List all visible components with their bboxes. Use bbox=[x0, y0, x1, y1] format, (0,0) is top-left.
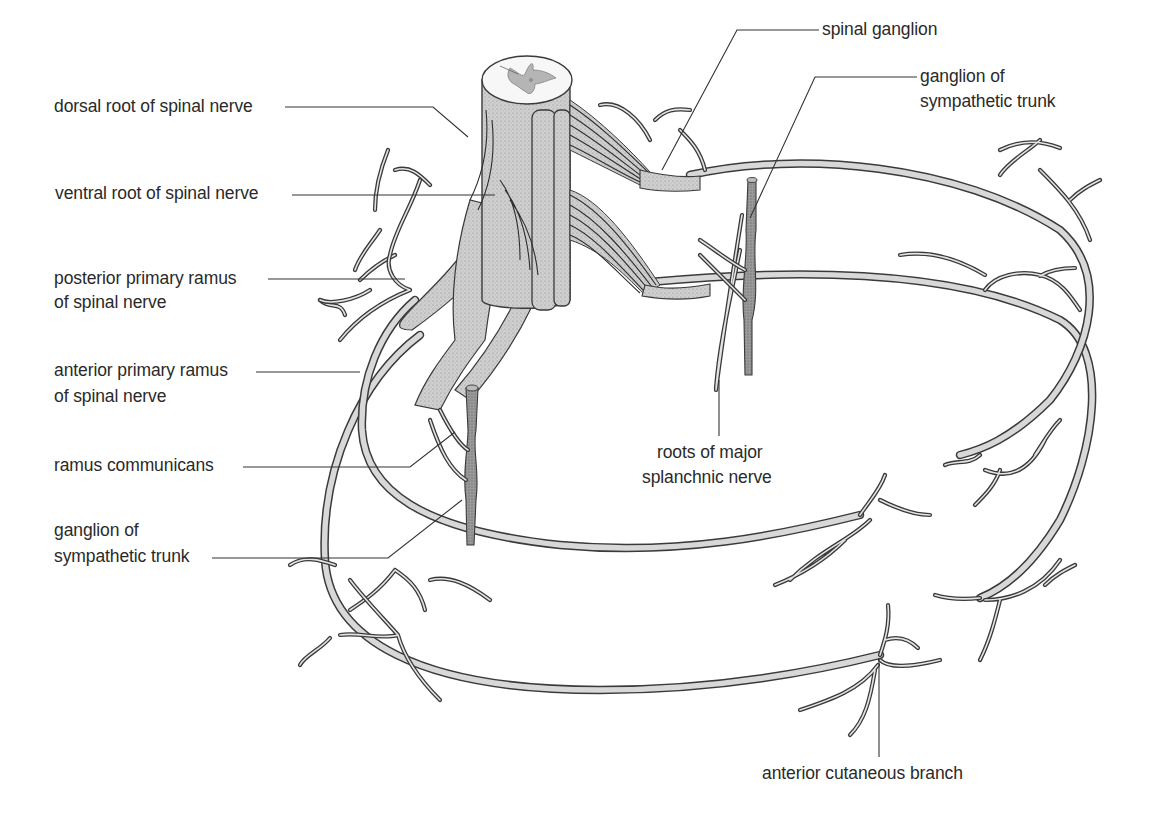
label-posterior-ramus-line2: of spinal nerve bbox=[54, 290, 166, 315]
label-anterior-ramus-line1: anterior primary ramus bbox=[54, 358, 228, 383]
label-ganglion-right-line2: sympathetic trunk bbox=[920, 89, 1055, 114]
label-dorsal-root: dorsal root of spinal nerve bbox=[54, 94, 253, 119]
label-ganglion-left-line1: ganglion of bbox=[54, 518, 139, 543]
label-spinal-ganglion: spinal ganglion bbox=[822, 17, 937, 42]
sympathetic-trunk-left bbox=[465, 385, 478, 545]
leader-ganglion-right bbox=[750, 77, 917, 218]
spinal-cord bbox=[482, 56, 572, 310]
label-ventral-root: ventral root of spinal nerve bbox=[55, 181, 258, 206]
leader-spinal-ganglion bbox=[662, 30, 819, 170]
leader-dorsal-root bbox=[285, 107, 468, 137]
label-anterior-ramus-line2: of spinal nerve bbox=[54, 384, 166, 409]
label-splanchnic-line1: roots of major bbox=[657, 440, 763, 465]
sympathetic-trunk-right bbox=[716, 178, 757, 391]
spinal-nerve-diagram bbox=[0, 0, 1171, 817]
label-ganglion-left-line2: sympathetic trunk bbox=[54, 544, 189, 569]
label-ramus-communicans: ramus communicans bbox=[54, 453, 214, 478]
label-splanchnic-line2: splanchnic nerve bbox=[642, 465, 772, 490]
label-ganglion-right-line1: ganglion of bbox=[920, 64, 1005, 89]
label-posterior-ramus-line1: posterior primary ramus bbox=[54, 266, 236, 291]
cutaneous-twigs bbox=[290, 104, 1100, 735]
label-anterior-cutaneous: anterior cutaneous branch bbox=[762, 761, 963, 786]
anterior-column bbox=[532, 110, 556, 310]
